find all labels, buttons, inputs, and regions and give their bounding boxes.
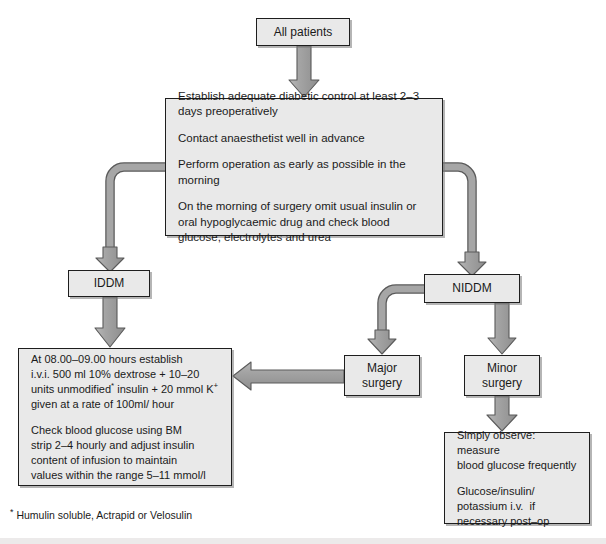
arrow-minor-to-observe [487, 396, 517, 431]
preop-line-4: On the morning of surgery omit usual ins… [178, 199, 430, 246]
node-minor-surgery-line2: surgery [482, 376, 522, 391]
arrow-iddm-to-insulin [95, 297, 125, 347]
node-minor-surgery[interactable]: Minor surgery [464, 355, 540, 396]
node-major-surgery-line2: surgery [362, 376, 402, 391]
arrow-major-to-insulin [233, 362, 344, 390]
flowchart-canvas: All patients Establish adequate diabetic… [0, 0, 606, 544]
insulin-regimen-paragraph-1: At 08.00–09.00 hours establish i.v.i. 50… [31, 352, 219, 412]
insulin-regimen-p1-post: insulin + 20 mmol K [114, 383, 213, 395]
node-iddm[interactable]: IDDM [68, 270, 150, 297]
node-minor-surgery-line1: Minor [487, 361, 517, 376]
node-all-patients-label: All patients [274, 25, 333, 40]
connector-preop-to-iddm [96, 167, 165, 272]
node-observe-minor[interactable]: Simply observe: measure blood glucose fr… [444, 432, 590, 524]
node-niddm[interactable]: NIDDM [424, 274, 520, 303]
page-bottom-band [0, 538, 606, 544]
node-insulin-regimen[interactable]: At 08.00–09.00 hours establish i.v.i. 50… [18, 348, 232, 486]
node-preoperative-instructions[interactable]: Establish adequate diabetic control at l… [165, 98, 443, 236]
preop-line-2: Contact anaesthetist well in advance [178, 131, 430, 147]
observe-paragraph-2: Glucose/insulin/ potassium i.v. if neces… [457, 484, 577, 529]
insulin-regimen-paragraph-2: Check blood glucose using BM strip 2–4 h… [31, 423, 219, 483]
arrow-niddm-to-minor [488, 303, 516, 354]
connector-preop-to-niddm [443, 167, 486, 276]
node-iddm-label: IDDM [94, 276, 125, 291]
potassium-charge-superscript: + [214, 381, 219, 390]
footnote: * Humulin soluble, Actrapid or Velosulin [10, 509, 192, 522]
insulin-regimen-p1-tail: given at a rate of 100ml/ hour [31, 398, 174, 410]
preop-line-1: Establish adequate diabetic control at l… [178, 89, 430, 120]
observe-paragraph-1: Simply observe: measure blood glucose fr… [457, 428, 577, 473]
node-major-surgery[interactable]: Major surgery [344, 355, 420, 396]
preop-line-3: Perform operation as early as possible i… [178, 157, 430, 188]
node-all-patients[interactable]: All patients [256, 18, 350, 46]
node-niddm-label: NIDDM [452, 281, 491, 296]
footnote-text: Humulin soluble, Actrapid or Velosulin [13, 509, 192, 521]
node-major-surgery-line1: Major [367, 361, 397, 376]
connector-niddm-to-major [368, 289, 424, 354]
